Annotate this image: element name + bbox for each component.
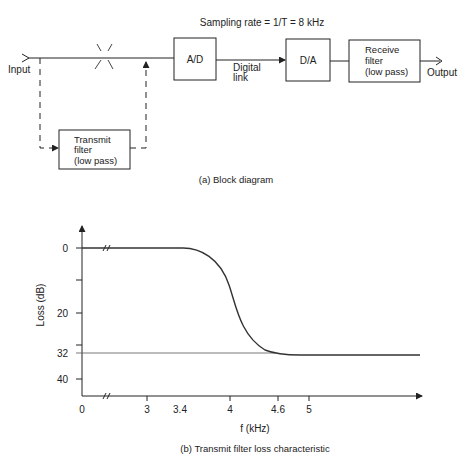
block-diagram-caption: (a) Block diagram	[199, 174, 274, 185]
svg-text:D/A: D/A	[300, 55, 317, 66]
x-axis-label: f (kHz)	[240, 423, 269, 434]
x-tick-4-6: 4.6	[271, 404, 285, 415]
input-chevron-icon	[22, 54, 29, 62]
svg-text:link: link	[233, 72, 249, 83]
dashed-path-from-filter	[130, 62, 146, 148]
input-label: Input	[8, 64, 30, 75]
figure: Sampling rate = 1/T = 8 kHz Input Transm…	[0, 0, 471, 468]
x-tick-3: 3	[144, 404, 150, 415]
svg-text:filter: filter	[365, 55, 383, 66]
loss-chart-caption: (b) Transmit filter loss characteristic	[180, 443, 330, 454]
x-tick-0: 0	[79, 404, 85, 415]
broken-connection-x-icon	[95, 44, 113, 69]
y-tick-0: 0	[62, 243, 68, 254]
ad-converter-block: A/D	[174, 38, 216, 80]
receive-filter-block: Receive filter (low pass)	[349, 40, 420, 82]
x-ticks	[147, 396, 309, 401]
axis-break-icon	[103, 245, 110, 399]
transmit-filter-block: Transmit filter (low pass)	[59, 130, 130, 169]
dashed-path-to-filter	[40, 58, 58, 148]
y-tick-40: 40	[57, 374, 69, 385]
sampling-rate-label: Sampling rate = 1/T = 8 kHz	[200, 17, 324, 28]
output-label: Output	[427, 67, 457, 78]
svg-text:A/D: A/D	[187, 54, 204, 65]
da-converter-block: D/A	[286, 39, 330, 81]
x-tick-3-4: 3.4	[173, 404, 187, 415]
loss-curve	[82, 248, 420, 355]
x-tick-4: 4	[227, 404, 233, 415]
svg-text:(low pass): (low pass)	[365, 66, 408, 77]
y-axis-label: Loss (dB)	[35, 284, 46, 327]
svg-text:filter: filter	[74, 144, 92, 155]
x-tick-5: 5	[306, 404, 312, 415]
svg-text:(low pass): (low pass)	[74, 155, 117, 166]
y-tick-20: 20	[57, 308, 69, 319]
y-tick-32: 32	[57, 348, 69, 359]
y-ticks	[76, 248, 82, 379]
svg-text:Receive: Receive	[365, 44, 399, 55]
